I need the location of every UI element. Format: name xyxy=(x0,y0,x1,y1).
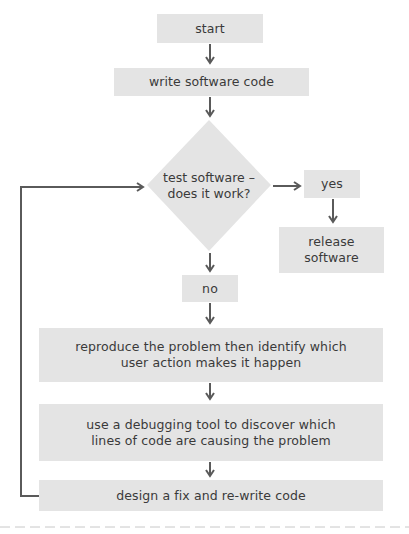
no-node: no xyxy=(182,275,238,302)
start-label: start xyxy=(195,21,225,37)
reproduce-problem-node: reproduce the problem then identify whic… xyxy=(39,328,383,382)
write-code-label: write software code xyxy=(149,74,274,90)
release-software-node: release software xyxy=(279,227,384,273)
start-node: start xyxy=(157,14,263,43)
reproduce-label-line2: user action makes it happen xyxy=(75,355,346,371)
debug-label-line2: lines of code are causing the problem xyxy=(86,433,335,449)
decision-label-line1: test software – xyxy=(163,170,255,186)
design-fix-node: design a fix and re-write code xyxy=(39,480,383,511)
yes-label: yes xyxy=(321,176,343,192)
debug-label-line1: use a debugging tool to discover which xyxy=(86,417,335,433)
decision-node: test software – does it work? xyxy=(147,120,271,251)
decision-label-line2: does it work? xyxy=(163,186,255,202)
design-label: design a fix and re-write code xyxy=(116,488,305,504)
reproduce-label-line1: reproduce the problem then identify whic… xyxy=(75,339,346,355)
debugging-tool-node: use a debugging tool to discover which l… xyxy=(39,404,383,461)
yes-node: yes xyxy=(304,170,360,198)
write-code-node: write software code xyxy=(114,68,309,96)
release-label-line1: release xyxy=(304,234,358,250)
no-label: no xyxy=(202,281,218,297)
release-label-line2: software xyxy=(304,250,358,266)
